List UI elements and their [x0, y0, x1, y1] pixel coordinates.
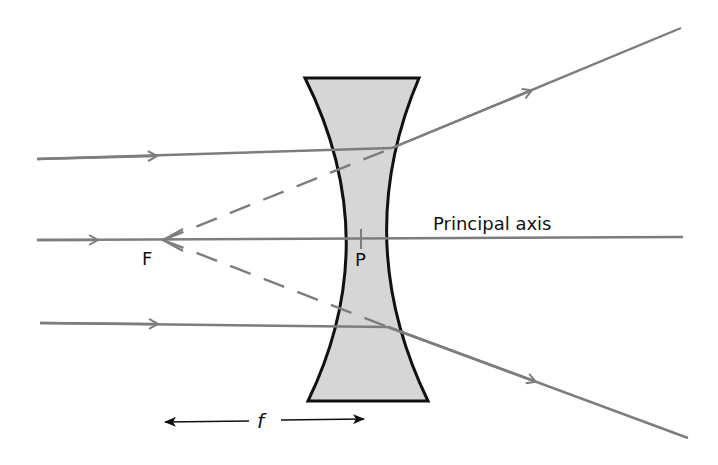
focal-length-arrow-right	[281, 419, 364, 420]
incident-ray-bottom-arrow	[40, 323, 156, 324]
ray-diagram: F P Principal axis f	[0, 0, 718, 465]
refracted-ray-top-arrow	[392, 91, 530, 148]
focal-length-label: f	[257, 409, 267, 433]
incident-ray-top-arrow	[37, 156, 155, 159]
focal-point-label: F	[142, 248, 152, 269]
optical-centre-label: P	[355, 249, 366, 270]
focal-length-arrow-left	[165, 421, 249, 422]
principal-axis-label: Principal axis	[433, 213, 552, 234]
